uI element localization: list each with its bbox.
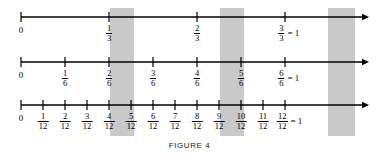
tick-label-fraction: 312 bbox=[82, 112, 93, 131]
tick-label-fraction: 46 bbox=[194, 69, 200, 88]
fraction-denominator: 12 bbox=[126, 122, 137, 131]
fraction-4-over-6: 46 bbox=[194, 69, 200, 88]
fraction-8-over-12: 812 bbox=[192, 112, 203, 131]
tick-label-fraction: 1012 bbox=[236, 112, 247, 131]
equals-one-label: = 1 bbox=[285, 74, 300, 83]
fraction-denominator: 3 bbox=[194, 34, 200, 43]
tick-label-fraction: 16 bbox=[62, 69, 68, 88]
tick-label-fraction: 13 bbox=[106, 24, 112, 43]
tick-label-fraction: 23 bbox=[194, 24, 200, 43]
equals-one-label: = 1 bbox=[287, 117, 302, 126]
fraction-denominator: 12 bbox=[104, 122, 115, 131]
tick-label-fraction: 66= 1 bbox=[278, 69, 299, 88]
figure-caption: FIGURE 4 bbox=[0, 141, 379, 150]
fraction-denominator: 12 bbox=[38, 122, 49, 131]
fraction-1-over-3: 13 bbox=[106, 24, 112, 43]
tick-label-fraction: 612 bbox=[148, 112, 159, 131]
fraction-9-over-12: 912 bbox=[214, 112, 225, 131]
fraction-10-over-12: 1012 bbox=[236, 112, 247, 131]
fraction-denominator: 3 bbox=[106, 34, 112, 43]
fraction-1-over-6: 16 bbox=[62, 69, 68, 88]
fraction-denominator: 6 bbox=[62, 79, 68, 88]
fraction-denominator: 6 bbox=[238, 79, 244, 88]
tick-label-fraction: 512 bbox=[126, 112, 137, 131]
fraction-11-over-12: 1112 bbox=[258, 112, 269, 131]
fraction-denominator: 12 bbox=[214, 122, 225, 131]
tick-label-fraction: 36 bbox=[150, 69, 156, 88]
fraction-1-over-12: 112 bbox=[38, 112, 49, 131]
fraction-2-over-6: 26 bbox=[106, 69, 112, 88]
fraction-3-over-6: 36 bbox=[150, 69, 156, 88]
tick-label-fraction: 26 bbox=[106, 69, 112, 88]
fraction-denominator: 12 bbox=[277, 122, 288, 131]
fraction-4-over-12: 412 bbox=[104, 112, 115, 131]
tick-label-fraction: 212 bbox=[60, 112, 71, 131]
fraction-7-over-12: 712 bbox=[170, 112, 181, 131]
tick-label-fraction: 1112 bbox=[258, 112, 269, 131]
tick-label-fraction: 56 bbox=[238, 69, 244, 88]
figure-4-number-lines: 0132333= 10162636465666= 101122123124125… bbox=[0, 0, 379, 156]
tick-label-zero: 0 bbox=[19, 113, 24, 123]
fraction-denominator: 12 bbox=[148, 122, 159, 131]
tick-label-zero: 0 bbox=[19, 25, 24, 35]
tick-label-fraction: 33= 1 bbox=[278, 24, 299, 43]
tick-label-fraction: 412 bbox=[104, 112, 115, 131]
fraction-denominator: 12 bbox=[82, 122, 93, 131]
fraction-5-over-12: 512 bbox=[126, 112, 137, 131]
tick-label-fraction: 1212= 1 bbox=[277, 112, 302, 131]
tick-label-layer: 0132333= 10162636465666= 101122123124125… bbox=[0, 0, 379, 156]
fraction-denominator: 12 bbox=[170, 122, 181, 131]
fraction-2-over-3: 23 bbox=[194, 24, 200, 43]
fraction-2-over-12: 212 bbox=[60, 112, 71, 131]
fraction-denominator: 6 bbox=[194, 79, 200, 88]
fraction-12-over-12: 1212 bbox=[277, 112, 288, 131]
tick-label-fraction: 712 bbox=[170, 112, 181, 131]
fraction-3-over-12: 312 bbox=[82, 112, 93, 131]
tick-label-fraction: 812 bbox=[192, 112, 203, 131]
fraction-denominator: 6 bbox=[150, 79, 156, 88]
equals-one-label: = 1 bbox=[285, 29, 300, 38]
tick-label-fraction: 112 bbox=[38, 112, 49, 131]
fraction-denominator: 6 bbox=[106, 79, 112, 88]
tick-label-zero: 0 bbox=[19, 70, 24, 80]
fraction-6-over-12: 612 bbox=[148, 112, 159, 131]
fraction-denominator: 12 bbox=[60, 122, 71, 131]
fraction-denominator: 12 bbox=[192, 122, 203, 131]
fraction-denominator: 12 bbox=[258, 122, 269, 131]
fraction-denominator: 12 bbox=[236, 122, 247, 131]
tick-label-fraction: 912 bbox=[214, 112, 225, 131]
fraction-5-over-6: 56 bbox=[238, 69, 244, 88]
